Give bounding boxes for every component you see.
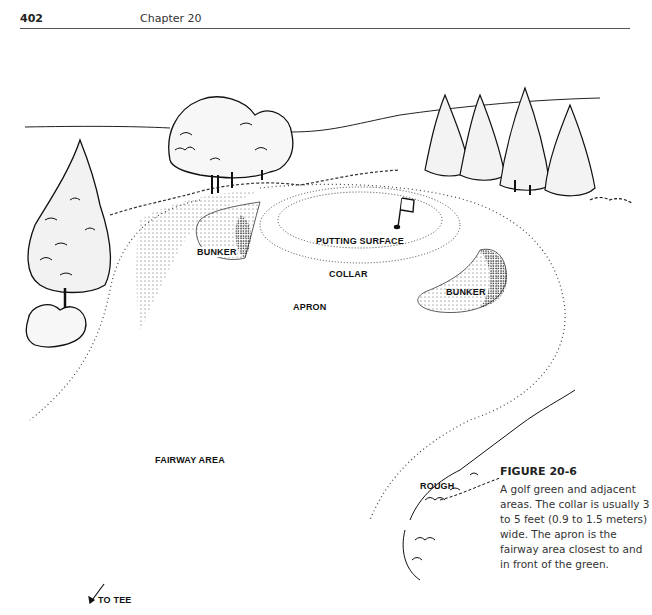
header-rule	[20, 28, 630, 29]
label-collar: COLLAR	[329, 269, 368, 279]
label-putting-surface: PUTTING SURFACE	[316, 236, 404, 246]
bunker-right	[418, 249, 507, 312]
evergreen-trees-right	[425, 88, 632, 203]
flagstick	[395, 198, 415, 229]
figure-caption-title: FIGURE 20-6	[500, 465, 650, 478]
deciduous-trees	[169, 97, 293, 194]
collar-ring	[260, 187, 460, 263]
label-bunker-right: BUNKER	[446, 287, 486, 297]
page-header: 402 Chapter 20	[0, 0, 652, 30]
chapter-title: Chapter 20	[140, 12, 201, 25]
figure-caption-text: A golf green and adjacent areas. The col…	[500, 482, 650, 572]
label-fairway-area: FAIRWAY AREA	[155, 455, 225, 465]
label-rough: ROUGH	[420, 481, 455, 491]
label-to-tee: TO TEE	[98, 595, 132, 605]
figure-caption: FIGURE 20-6 A golf green and adjacent ar…	[500, 465, 650, 572]
label-apron: APRON	[293, 302, 327, 312]
page-number: 402	[20, 12, 43, 25]
label-bunker-left: BUNKER	[197, 247, 237, 257]
evergreen-tree-left	[26, 140, 110, 347]
